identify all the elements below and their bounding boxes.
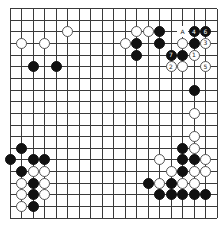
white-stone[interactable]: [177, 38, 188, 49]
white-stone[interactable]: [16, 178, 27, 189]
black-stone[interactable]: [154, 38, 165, 49]
black-stone[interactable]: [189, 154, 200, 165]
white-stone[interactable]: [39, 38, 50, 49]
black-stone[interactable]: [166, 178, 177, 189]
white-stone[interactable]: [16, 38, 27, 49]
white-stone[interactable]: [200, 166, 211, 177]
black-stone[interactable]: [177, 189, 188, 200]
move-number-label: 3: [204, 40, 208, 46]
black-stone[interactable]: [28, 154, 39, 165]
white-stone[interactable]: [200, 154, 211, 165]
point-marker[interactable]: A: [177, 26, 188, 37]
move-number-label: 4: [192, 29, 196, 35]
white-stone[interactable]: [143, 26, 154, 37]
white-stone[interactable]: [28, 166, 39, 177]
black-stone[interactable]: 7: [166, 50, 177, 61]
black-stone[interactable]: [177, 166, 188, 177]
white-stone[interactable]: [189, 108, 200, 119]
white-stone[interactable]: 5: [200, 61, 211, 72]
grid-line-horizontal: [10, 136, 217, 137]
black-stone[interactable]: [154, 189, 165, 200]
black-stone[interactable]: [143, 178, 154, 189]
black-stone[interactable]: [177, 154, 188, 165]
grid-line-horizontal: [10, 113, 217, 114]
white-stone[interactable]: [189, 143, 200, 154]
black-stone[interactable]: [177, 50, 188, 61]
white-stone[interactable]: [154, 154, 165, 165]
white-stone[interactable]: [62, 26, 73, 37]
black-stone[interactable]: [131, 50, 142, 61]
white-stone[interactable]: [16, 201, 27, 212]
white-stone[interactable]: [131, 26, 142, 37]
move-number-label: 1: [192, 52, 196, 58]
move-number-label: 6: [204, 29, 208, 35]
white-stone[interactable]: [39, 166, 50, 177]
white-stone[interactable]: [189, 178, 200, 189]
white-stone[interactable]: [39, 178, 50, 189]
white-stone[interactable]: 3: [200, 38, 211, 49]
white-stone[interactable]: [177, 178, 188, 189]
black-stone[interactable]: [189, 38, 200, 49]
black-stone[interactable]: [131, 38, 142, 49]
white-stone[interactable]: 1: [189, 50, 200, 61]
white-stone[interactable]: [189, 166, 200, 177]
black-stone[interactable]: [28, 178, 39, 189]
white-stone[interactable]: [120, 38, 131, 49]
white-stone[interactable]: [166, 166, 177, 177]
black-stone[interactable]: [28, 189, 39, 200]
white-stone[interactable]: [39, 189, 50, 200]
grid-line-horizontal: [10, 218, 217, 219]
black-stone[interactable]: [51, 61, 62, 72]
black-stone[interactable]: [154, 26, 165, 37]
black-stone[interactable]: [5, 154, 16, 165]
black-stone[interactable]: [39, 154, 50, 165]
black-stone[interactable]: 6: [200, 26, 211, 37]
move-number-label: 5: [204, 64, 208, 70]
black-stone[interactable]: [200, 189, 211, 200]
move-number-label: 7: [169, 52, 173, 58]
black-stone[interactable]: [189, 85, 200, 96]
black-stone[interactable]: [166, 189, 177, 200]
white-stone[interactable]: [154, 178, 165, 189]
white-stone[interactable]: [189, 131, 200, 142]
black-stone[interactable]: [16, 166, 27, 177]
white-stone[interactable]: [16, 189, 27, 200]
black-stone[interactable]: 4: [189, 26, 200, 37]
move-number-label: 2: [169, 64, 173, 70]
go-board[interactable]: A4637125: [0, 0, 221, 230]
white-stone[interactable]: 2: [166, 61, 177, 72]
black-stone[interactable]: [28, 201, 39, 212]
black-stone[interactable]: [28, 61, 39, 72]
black-stone[interactable]: [16, 143, 27, 154]
grid-line-vertical: [217, 9, 218, 219]
white-stone[interactable]: [177, 61, 188, 72]
grid-line-horizontal: [10, 206, 217, 207]
grid-line-horizontal: [10, 125, 217, 126]
black-stone[interactable]: [177, 143, 188, 154]
black-stone[interactable]: [189, 189, 200, 200]
